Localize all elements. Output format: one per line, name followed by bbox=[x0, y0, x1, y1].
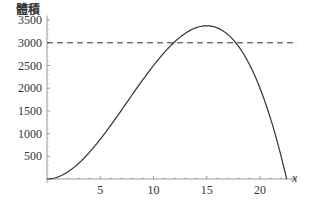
x-tick-label: 10 bbox=[148, 183, 160, 197]
y-tick-label: 3000 bbox=[18, 36, 42, 50]
y-tick-label: 500 bbox=[24, 149, 42, 163]
y-tick-label: 2500 bbox=[18, 59, 42, 73]
volume-chart: 體積 500100015002000250030003500 5101520 x bbox=[0, 0, 314, 204]
x-axis-label: x bbox=[291, 171, 298, 185]
y-tick-label: 3500 bbox=[18, 13, 42, 27]
x-tick-label: 5 bbox=[97, 183, 103, 197]
x-tick-label: 20 bbox=[254, 183, 266, 197]
y-tick-label: 1500 bbox=[18, 104, 42, 118]
y-tick-label: 1000 bbox=[18, 127, 42, 141]
volume-curve bbox=[47, 26, 287, 179]
x-tick-label: 15 bbox=[201, 183, 213, 197]
y-ticks: 500100015002000250030003500 bbox=[18, 13, 50, 174]
y-tick-label: 2000 bbox=[18, 81, 42, 95]
